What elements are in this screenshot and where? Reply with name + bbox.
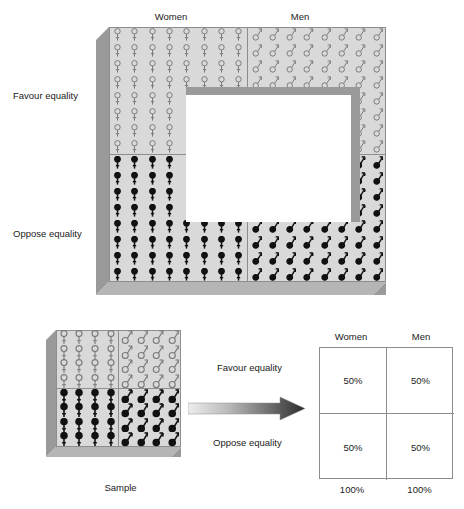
male-outline-icon [317, 59, 334, 75]
female-outline-icon [103, 374, 119, 389]
male-filled-icon [282, 250, 299, 266]
male-outline-icon [334, 27, 351, 43]
female-outline-icon [144, 27, 161, 43]
female-outline-icon [109, 27, 126, 43]
female-filled-icon [126, 218, 143, 234]
table-cell-oppose-men: 50% [387, 414, 454, 480]
male-filled-icon [134, 389, 150, 404]
female-filled-icon [109, 266, 126, 282]
female-filled-icon [103, 418, 119, 433]
male-filled-icon [317, 234, 334, 250]
table-row-label-oppose: Oppose equality [213, 437, 282, 448]
female-outline-icon [161, 107, 178, 123]
female-outline-icon [126, 59, 143, 75]
female-filled-icon [87, 432, 103, 447]
male-outline-icon [299, 27, 316, 43]
male-outline-icon [369, 139, 386, 155]
female-filled-icon [230, 266, 247, 282]
female-filled-icon [213, 266, 230, 282]
male-outline-icon [369, 91, 386, 107]
male-outline-icon [334, 43, 351, 59]
female-filled-icon [109, 155, 126, 171]
female-filled-icon [144, 155, 161, 171]
male-filled-icon [334, 250, 351, 266]
female-filled-icon [161, 266, 178, 282]
female-filled-icon [109, 170, 126, 186]
male-outline-icon [134, 345, 150, 360]
female-filled-icon [87, 389, 103, 404]
male-filled-icon [369, 218, 386, 234]
male-outline-icon [150, 374, 166, 389]
female-outline-icon [161, 123, 178, 139]
male-filled-icon [119, 432, 135, 447]
male-filled-icon [165, 418, 181, 433]
male-filled-icon [265, 234, 282, 250]
male-filled-icon [150, 389, 166, 404]
female-filled-icon [144, 186, 161, 202]
male-filled-icon [369, 202, 386, 218]
female-outline-icon [56, 345, 72, 360]
male-filled-icon [165, 432, 181, 447]
male-outline-icon [369, 123, 386, 139]
female-filled-icon [161, 250, 178, 266]
female-filled-icon [109, 186, 126, 202]
female-filled-icon [109, 234, 126, 250]
female-outline-icon [126, 75, 143, 91]
female-outline-icon [213, 27, 230, 43]
female-filled-icon [161, 170, 178, 186]
male-outline-icon [282, 43, 299, 59]
male-outline-icon [369, 27, 386, 43]
male-filled-icon [369, 155, 386, 171]
male-outline-icon [134, 359, 150, 374]
male-filled-icon [282, 266, 299, 282]
female-outline-icon [161, 43, 178, 59]
male-filled-icon [248, 234, 265, 250]
female-filled-icon [144, 266, 161, 282]
female-outline-icon [109, 91, 126, 107]
female-filled-icon [230, 250, 247, 266]
male-filled-icon [351, 266, 368, 282]
results-table: 50% 50% 50% 50% [319, 347, 453, 479]
male-outline-icon [282, 27, 299, 43]
male-outline-icon [248, 27, 265, 43]
male-outline-icon [248, 59, 265, 75]
table-total-men: 100% [386, 484, 453, 495]
female-outline-icon [126, 139, 143, 155]
male-filled-icon [150, 403, 166, 418]
female-filled-icon [126, 186, 143, 202]
female-outline-icon [72, 374, 88, 389]
male-outline-icon [351, 27, 368, 43]
population-row-label-favour: Favour equality [13, 90, 78, 101]
female-outline-icon [126, 43, 143, 59]
female-outline-icon [144, 107, 161, 123]
female-filled-icon [196, 250, 213, 266]
male-outline-icon [317, 27, 334, 43]
female-filled-icon [126, 250, 143, 266]
female-outline-icon [178, 59, 195, 75]
female-filled-icon [87, 418, 103, 433]
female-filled-icon [161, 218, 178, 234]
figure-root: Women Men Favour equality Oppose equalit… [0, 0, 464, 509]
male-filled-icon [334, 234, 351, 250]
male-outline-icon [119, 359, 135, 374]
female-outline-icon [87, 359, 103, 374]
female-filled-icon [161, 186, 178, 202]
male-outline-icon [119, 330, 135, 345]
female-outline-icon [196, 59, 213, 75]
male-outline-icon [150, 345, 166, 360]
male-filled-icon [299, 250, 316, 266]
male-filled-icon [334, 266, 351, 282]
male-filled-icon [369, 250, 386, 266]
female-outline-icon [109, 75, 126, 91]
male-filled-icon [282, 234, 299, 250]
male-outline-icon [248, 43, 265, 59]
female-filled-icon [103, 389, 119, 404]
male-filled-icon [317, 266, 334, 282]
female-outline-icon [126, 27, 143, 43]
female-filled-icon [56, 432, 72, 447]
female-filled-icon [213, 250, 230, 266]
female-filled-icon [72, 403, 88, 418]
female-filled-icon [144, 170, 161, 186]
female-outline-icon [178, 43, 195, 59]
male-filled-icon [134, 432, 150, 447]
